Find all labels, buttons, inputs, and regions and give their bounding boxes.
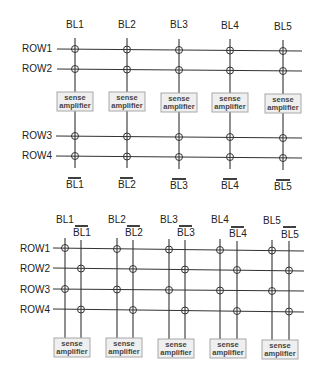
sense-amp-line2: amplifier — [214, 102, 245, 111]
bottom-diagram: BL1 BL2 BL3 BL4 BL5 BL1 BL2 BL3 BL4 BL5 … — [20, 214, 304, 359]
bottom-row1-wire — [53, 248, 304, 251]
bottom-bl5-label: BL5 — [263, 215, 281, 226]
bottom-bl3bar-label: BL3 — [177, 227, 195, 238]
dram-bitline-diagrams: BL1 BL2 BL3 BL4 BL5 ROW1 ROW2 — [0, 0, 317, 376]
top-bl5-label: BL5 — [274, 21, 292, 32]
sense-amp-line2: amplifier — [56, 347, 87, 356]
sense-amp-line2: amplifier — [160, 348, 191, 357]
top-row2-label: ROW2 — [22, 63, 52, 74]
top-sense-amp-4: sense amplifier — [212, 93, 248, 112]
bottom-bl4-label: BL4 — [211, 214, 229, 225]
bottom-sense-amp-1: sense amplifier — [54, 338, 90, 357]
bottom-bl5bar-label: BL5 — [281, 229, 299, 240]
top-bl3bar-label: BL3 — [170, 180, 188, 191]
bottom-sense-amp-5: sense amplifier — [262, 340, 298, 359]
bottom-bl1-label: BL1 — [56, 214, 74, 225]
bottom-row1-label: ROW1 — [20, 243, 50, 254]
sense-amp-line2: amplifier — [111, 101, 142, 110]
bottom-row3-label: ROW3 — [20, 284, 50, 295]
sense-amp-line2: amplifier — [212, 348, 243, 357]
bottom-row2-wire — [53, 268, 304, 271]
sense-amp-line2: amplifier — [59, 101, 90, 110]
sense-amp-line2: amplifier — [163, 102, 194, 111]
top-bl3-label: BL3 — [170, 19, 188, 30]
top-bl1bar-label: BL1 — [66, 179, 84, 190]
top-bl4-label: BL4 — [221, 20, 239, 31]
top-sense-amp-1: sense amplifier — [57, 92, 93, 111]
top-diagram: BL1 BL2 BL3 BL4 BL5 ROW1 ROW2 — [22, 19, 302, 192]
sense-amp-line2: amplifier — [264, 349, 295, 358]
sense-amp-line2: amplifier — [267, 103, 298, 112]
bottom-sense-amp-4: sense amplifier — [210, 339, 246, 358]
bottom-bl1bar-label: BL1 — [73, 227, 91, 238]
bottom-row3-wire — [53, 289, 304, 291]
bottom-sense-amp-3: sense amplifier — [158, 339, 194, 358]
top-bl5bar-label: BL5 — [274, 181, 292, 192]
bottom-bl4bar-label: BL4 — [229, 228, 247, 239]
top-row3-label: ROW3 — [22, 130, 52, 141]
top-blbar-labels: BL1 BL2 BL3 BL4 BL5 — [66, 178, 292, 192]
top-bl2-label: BL2 — [118, 19, 136, 30]
top-sense-amp-2: sense amplifier — [109, 92, 145, 111]
bottom-cells — [62, 245, 293, 316]
top-bl4bar-label: BL4 — [221, 180, 239, 191]
bottom-row4-label: ROW4 — [20, 304, 50, 315]
bottom-row2-label: ROW2 — [20, 263, 50, 274]
bottom-bl2-label: BL2 — [108, 214, 126, 225]
bottom-bl3-label: BL3 — [160, 214, 178, 225]
top-bl1-label: BL1 — [66, 19, 84, 30]
top-row4-label: ROW4 — [22, 150, 52, 161]
top-row1-label: ROW1 — [22, 43, 52, 54]
top-bl2bar-label: BL2 — [118, 179, 136, 190]
bottom-bl2bar-label: BL2 — [125, 227, 143, 238]
top-sense-amp-5: sense amplifier — [265, 94, 301, 113]
bottom-row4-wire — [53, 309, 304, 312]
bottom-sense-amp-2: sense amplifier — [106, 338, 142, 357]
top-sense-amp-3: sense amplifier — [161, 93, 197, 112]
sense-amp-line2: amplifier — [108, 347, 139, 356]
